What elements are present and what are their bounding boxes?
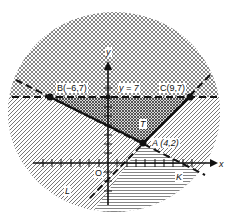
label-x-axis: x	[218, 159, 225, 169]
point-b	[47, 94, 54, 101]
label-origin: O	[94, 168, 103, 178]
coordinate-diagram	[0, 0, 233, 216]
point-c	[187, 94, 194, 101]
label-point-b: B(−6,7)	[56, 83, 88, 93]
point-a	[140, 140, 147, 147]
label-point-c: C(9,7)	[159, 83, 186, 93]
label-line-k: K	[175, 172, 183, 182]
label-point-a: A (4,2)	[151, 138, 180, 148]
label-y-axis: y	[105, 47, 112, 57]
label-line-l: L	[64, 186, 71, 196]
point-y-intercept	[106, 95, 111, 100]
label-region-t: T	[139, 119, 147, 129]
shaded-region	[0, 0, 233, 216]
label-line-y7: y = 7	[118, 83, 140, 93]
